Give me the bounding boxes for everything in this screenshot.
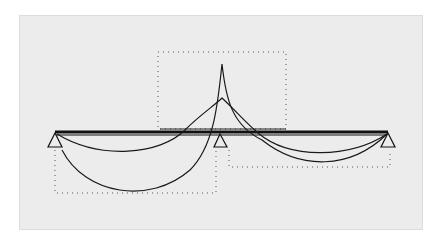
deflection-curve-2 [62, 64, 387, 191]
beam-diagram [0, 0, 442, 244]
upper-center-box [158, 52, 286, 129]
middle-support-triangle [214, 134, 227, 147]
